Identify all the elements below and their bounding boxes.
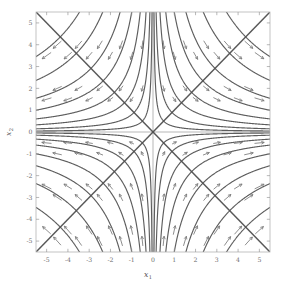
- y-tick-label: -1: [26, 150, 32, 157]
- y-tick-label: -2: [26, 172, 32, 179]
- y-tick-label: -4: [26, 215, 32, 222]
- y-tick-label: -5: [26, 237, 32, 244]
- y-tick-label: 5: [29, 19, 33, 26]
- y-tick-label: 4: [29, 41, 33, 48]
- plot-canvas: -5-4-3-2-1012345 -5-4-3-2-1012345 x1 x2: [0, 0, 285, 291]
- y-tick-label: 0: [29, 128, 33, 135]
- x-tick-label: 1: [172, 256, 176, 263]
- y-tick-label: 3: [29, 63, 33, 70]
- x-tick-label: 5: [257, 256, 261, 263]
- x-tick-label: -3: [86, 256, 92, 263]
- x-tick-label: 2: [194, 256, 198, 263]
- x-tick-label: -1: [129, 256, 135, 263]
- y-tick-label: 2: [29, 85, 33, 92]
- y-tick-label: 1: [29, 106, 33, 113]
- phase-portrait-figure: -5-4-3-2-1012345 -5-4-3-2-1012345 x1 x2: [0, 0, 285, 291]
- x-tick-label: -2: [107, 256, 113, 263]
- x-tick-label: 3: [215, 256, 219, 263]
- x-tick-label: -5: [44, 256, 50, 263]
- x-tick-label: 4: [236, 256, 240, 263]
- x-tick-label: 0: [151, 256, 155, 263]
- y-tick-label: -3: [26, 194, 32, 201]
- x-tick-label: -4: [65, 256, 71, 263]
